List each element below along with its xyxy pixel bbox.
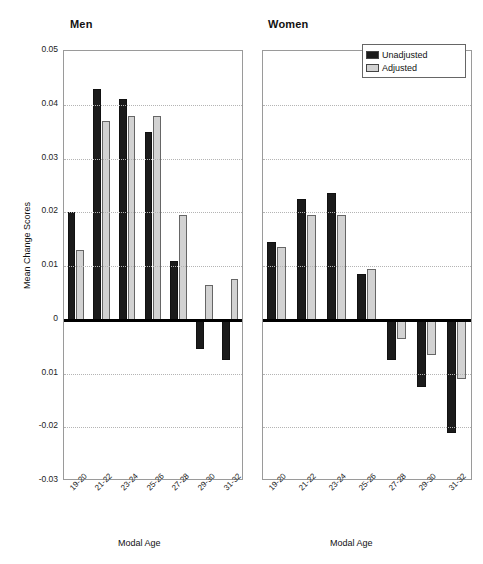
legend-label-adjusted: Adjusted [382, 63, 417, 73]
bar-group [383, 51, 413, 479]
plot-area-men: Mean Change Scores [63, 50, 243, 480]
bar-women-19-20-unadjusted[interactable] [267, 242, 276, 320]
legend-swatch-adjusted-icon [366, 64, 379, 72]
bar-men-31-32-adjusted[interactable] [231, 279, 239, 319]
bar-men-25-26-adjusted[interactable] [153, 116, 161, 320]
bar-women-23-24-adjusted[interactable] [337, 215, 346, 320]
bar-men-19-20-adjusted[interactable] [76, 250, 84, 320]
zero-baseline [64, 319, 242, 322]
bar-women-19-20-adjusted[interactable] [277, 247, 286, 320]
bar-group [413, 51, 443, 479]
bar-women-25-26-unadjusted[interactable] [357, 274, 366, 320]
bar-men-25-26-unadjusted[interactable] [145, 132, 153, 320]
gridline [64, 212, 242, 213]
bar-men-29-30-adjusted[interactable] [205, 285, 213, 320]
bar-women-29-30-adjusted[interactable] [427, 320, 436, 355]
legend-item-unadjusted[interactable]: Unadjusted [366, 48, 461, 61]
bar-men-23-24-adjusted[interactable] [128, 116, 136, 320]
bar-men-23-24-unadjusted[interactable] [119, 99, 127, 319]
panel-title-women: Women [268, 18, 309, 30]
y-tick-label: 0.01 [18, 259, 58, 269]
bar-group [218, 51, 244, 479]
bar-group [64, 51, 90, 479]
bar-group [263, 51, 293, 479]
bar-men-21-22-unadjusted[interactable] [93, 89, 101, 320]
bar-women-21-22-unadjusted[interactable] [297, 199, 306, 320]
bar-group [90, 51, 116, 479]
legend-label-unadjusted: Unadjusted [382, 50, 428, 60]
gridline [64, 374, 242, 375]
bar-women-31-32-unadjusted[interactable] [447, 320, 456, 433]
x-axis-title-women: Modal Age [330, 538, 373, 548]
plot-area-women [262, 50, 472, 480]
bar-men-27-28-adjusted[interactable] [179, 215, 187, 320]
bar-women-31-32-adjusted[interactable] [457, 320, 466, 379]
y-tick-label: 0.04 [18, 98, 58, 108]
y-tick-label: 0.01 [18, 367, 58, 377]
bar-series-women [263, 51, 471, 479]
gridline [263, 212, 471, 213]
bar-women-25-26-adjusted[interactable] [367, 269, 376, 320]
gridline [64, 427, 242, 428]
gridline [64, 266, 242, 267]
bar-women-29-30-unadjusted[interactable] [417, 320, 426, 387]
bar-women-27-28-adjusted[interactable] [397, 320, 406, 339]
gridline [263, 105, 471, 106]
gridline [263, 159, 471, 160]
gridline [64, 159, 242, 160]
bar-group [141, 51, 167, 479]
bar-men-21-22-adjusted[interactable] [102, 121, 110, 320]
bar-group [353, 51, 383, 479]
legend-swatch-unadjusted-icon [366, 51, 379, 59]
bar-women-27-28-unadjusted[interactable] [387, 320, 396, 360]
gridline [263, 266, 471, 267]
bar-group [323, 51, 353, 479]
panel-title-men: Men [70, 18, 93, 30]
gridline [263, 374, 471, 375]
zero-baseline [263, 319, 471, 322]
y-tick-label: 0.02 [18, 205, 58, 215]
x-axis-title-men: Modal Age [118, 538, 161, 548]
bar-group [115, 51, 141, 479]
chart-figure: Men Women Mean Change Scores 0.050.040.0… [0, 0, 483, 564]
y-tick-label: -0.03 [18, 474, 58, 484]
bar-group [443, 51, 473, 479]
bar-group [167, 51, 193, 479]
legend-item-adjusted[interactable]: Adjusted [366, 61, 461, 74]
bar-men-27-28-unadjusted[interactable] [170, 261, 178, 320]
bar-group [293, 51, 323, 479]
bar-group [193, 51, 219, 479]
y-tick-label: -0.02 [18, 420, 58, 430]
gridline [64, 105, 242, 106]
y-tick-label: 0.05 [18, 44, 58, 54]
bar-men-29-30-unadjusted[interactable] [196, 320, 204, 350]
gridline [263, 427, 471, 428]
bar-men-31-32-unadjusted[interactable] [222, 320, 230, 360]
bar-women-21-22-adjusted[interactable] [307, 215, 316, 320]
chart-legend: Unadjusted Adjusted [362, 44, 466, 78]
y-tick-label: 0.03 [18, 152, 58, 162]
bar-series-men [64, 51, 242, 479]
y-tick-label: 0 [18, 313, 58, 323]
